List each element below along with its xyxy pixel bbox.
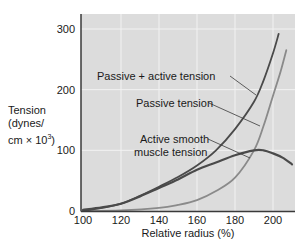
y-axis-label-units: cm × 10 xyxy=(8,134,47,146)
y-axis-label-line3: cm × 103) xyxy=(8,130,55,147)
x-tick-label: 160 xyxy=(188,214,206,226)
x-axis-label: Relative radius (%) xyxy=(142,227,235,239)
y-axis-label-close: ) xyxy=(51,134,55,146)
y-axis-label-line1: Tension xyxy=(8,104,55,117)
x-tick-label: 140 xyxy=(150,214,168,226)
annotation-active-line2: muscle tension xyxy=(134,146,207,158)
y-tick-label: 300 xyxy=(57,23,75,35)
x-tick-label: 100 xyxy=(74,214,92,226)
y-axis-label: Tension (dynes/ cm × 103) xyxy=(8,104,55,147)
annotation-passive: Passive tension xyxy=(136,97,213,109)
x-tick-label: 120 xyxy=(112,214,130,226)
x-tick-label: 200 xyxy=(264,214,282,226)
x-axis-tick-labels: 100120140160180200 xyxy=(74,214,282,226)
annotation-passive-active: Passive + active tension xyxy=(97,70,215,82)
y-axis-label-line2: (dynes/ xyxy=(8,117,55,130)
x-tick-label: 180 xyxy=(226,214,244,226)
y-axis-tick-labels: 0100200300 xyxy=(57,23,75,217)
y-tick-label: 100 xyxy=(57,144,75,156)
annotation-active-line1: Active smooth xyxy=(140,133,209,145)
y-tick-label: 200 xyxy=(57,84,75,96)
plot-area xyxy=(81,14,295,211)
